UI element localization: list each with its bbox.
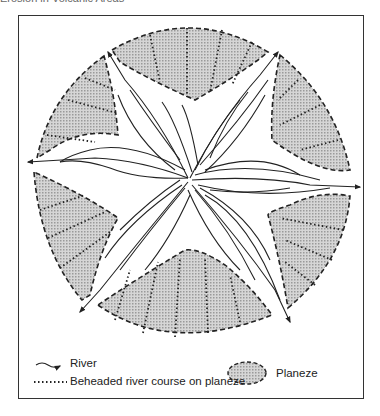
- legend-beheaded-label: Beheaded river course on planeze: [70, 375, 245, 387]
- planeze-areas: [34, 28, 350, 333]
- planeze-upper-left: [37, 56, 118, 158]
- legend-planeze-label: Planeze: [276, 367, 318, 379]
- volcano-diagram: [0, 0, 380, 416]
- planeze-upper-right: [272, 55, 350, 171]
- legend-river-icon: [36, 363, 60, 367]
- planeze-top: [112, 28, 268, 100]
- legend-river-label: River: [70, 357, 97, 369]
- river-right: [192, 178, 360, 187]
- planeze-lower-left: [34, 172, 118, 300]
